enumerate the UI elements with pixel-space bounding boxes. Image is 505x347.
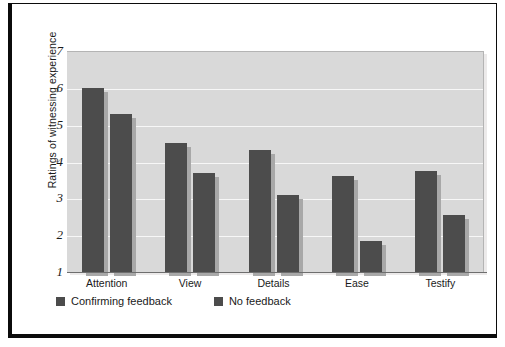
x-axis-tick-label: Testify xyxy=(425,277,455,289)
gridline xyxy=(67,89,483,90)
y-axis-tick-label: 6 xyxy=(17,80,63,96)
bar xyxy=(82,88,104,272)
y-axis-tick-label: 2 xyxy=(17,227,63,243)
legend-label: No feedback xyxy=(229,295,291,307)
y-axis-tick-label: 3 xyxy=(17,190,63,206)
legend-item: No feedback xyxy=(214,295,291,307)
x-axis-tick-label: Ease xyxy=(345,277,369,289)
legend-swatch-icon xyxy=(214,297,223,306)
chart-frame: Ratings of witnessing experience 7654321… xyxy=(8,3,497,338)
y-axis-tick-label: 5 xyxy=(17,117,63,133)
bar xyxy=(443,215,465,272)
legend-item: Confirming feedback xyxy=(56,295,172,307)
y-axis-tick-label: 7 xyxy=(17,43,63,59)
bar xyxy=(360,241,382,272)
x-axis-line xyxy=(67,272,487,273)
bar xyxy=(110,114,132,272)
bar xyxy=(165,143,187,272)
chart-legend: Confirming feedbackNo feedback xyxy=(56,295,333,307)
bar xyxy=(415,171,437,272)
bar xyxy=(193,173,215,272)
bar xyxy=(332,176,354,272)
y-axis-tick-label: 1 xyxy=(17,264,63,280)
figure: Ratings of witnessing experience 7654321… xyxy=(0,0,505,347)
y-axis-tick-label: 4 xyxy=(17,154,63,170)
legend-label: Confirming feedback xyxy=(71,295,172,307)
bar xyxy=(249,150,271,272)
legend-swatch-icon xyxy=(56,297,65,306)
bar xyxy=(277,195,299,272)
x-axis-tick-label: Attention xyxy=(86,277,127,289)
x-axis-tick-label: View xyxy=(179,277,202,289)
x-axis-tick-label: Details xyxy=(257,277,289,289)
